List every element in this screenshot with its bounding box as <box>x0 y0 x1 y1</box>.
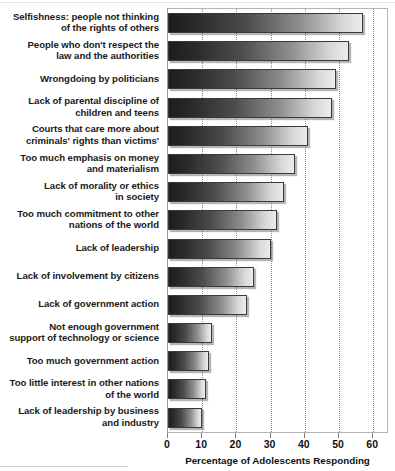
category-label: Lack of morality or ethicsin society <box>0 177 163 205</box>
bar-row <box>168 122 387 150</box>
bar-row <box>168 404 387 432</box>
category-label-line: Wrongdoing by politicians <box>40 73 159 84</box>
category-label-line: nations of the world <box>17 219 159 230</box>
x-axis-tick-labels: 0102030405060 <box>0 438 395 452</box>
x-tick-label: 50 <box>332 438 344 450</box>
category-label-line: of the world <box>10 389 159 400</box>
bar <box>168 41 349 61</box>
x-tick-label: 10 <box>195 438 207 450</box>
bar-row <box>168 178 387 206</box>
category-label-line: Selfishness: people not thinking <box>13 11 159 22</box>
bar <box>168 98 332 118</box>
bar <box>168 182 284 202</box>
scan-artifact-top <box>0 2 395 3</box>
bar-row <box>168 37 387 65</box>
x-tick-label: 60 <box>366 438 378 450</box>
bar <box>168 126 308 146</box>
category-label: Too much commitment to othernations of t… <box>0 205 163 233</box>
category-label: Lack of involvement by citizens <box>0 262 163 290</box>
bar-row <box>168 150 387 178</box>
bar-row <box>168 291 387 319</box>
category-label-line: Lack of morality or ethics <box>44 180 159 191</box>
x-tick-label: 20 <box>230 438 242 450</box>
x-tick-label: 30 <box>264 438 276 450</box>
category-label: Wrongdoing by politicians <box>0 64 163 92</box>
category-labels-column: Selfishness: people not thinkingof the r… <box>0 8 163 431</box>
category-label-line: Too much commitment to other <box>17 208 159 219</box>
category-label-line: Lack of leadership by business <box>18 405 159 416</box>
scan-artifact-bottom <box>0 466 128 467</box>
bar-row <box>168 94 387 122</box>
bar-row <box>168 9 387 37</box>
bar <box>168 69 336 89</box>
category-label-line: support of technology or science <box>9 332 159 343</box>
bar <box>168 267 254 287</box>
category-label-line: and industry <box>18 417 159 428</box>
category-label: Too much government action <box>0 346 163 374</box>
category-label-line: Lack of involvement by citizens <box>17 270 159 281</box>
bar <box>168 210 277 230</box>
category-label-line: and materialism <box>20 163 159 174</box>
bar <box>168 295 247 315</box>
category-label: Lack of parental discipline ofchildren a… <box>0 93 163 121</box>
category-label: Lack of leadership by businessand indust… <box>0 403 163 431</box>
bar-row <box>168 319 387 347</box>
category-label-line: Lack of government action <box>38 298 159 309</box>
category-label-line: criminals' rights than victims' <box>26 135 159 146</box>
category-label-line: Lack of parental discipline of <box>28 95 159 106</box>
bar-row <box>168 206 387 234</box>
category-label: Too much emphasis on moneyand materialis… <box>0 149 163 177</box>
category-label: Lack of government action <box>0 290 163 318</box>
category-label-line: Courts that care more about <box>26 123 159 134</box>
bar <box>168 239 271 259</box>
bar <box>168 351 209 371</box>
bar <box>168 323 212 343</box>
category-label-line: Too little interest in other nations <box>10 377 159 388</box>
category-label: Lack of leadership <box>0 234 163 262</box>
bars-group <box>168 9 387 432</box>
category-label-line: children and teens <box>28 107 159 118</box>
category-label-line: law and the authorities <box>28 50 159 61</box>
bar-row <box>168 263 387 291</box>
category-label-line: Lack of leadership <box>76 242 159 253</box>
x-axis-title: Percentage of Adolescents Responding <box>167 455 388 466</box>
x-tick-label: 40 <box>298 438 310 450</box>
bar-row <box>168 65 387 93</box>
category-label-line: in society <box>44 191 159 202</box>
category-label-line: People who don't respect the <box>28 39 159 50</box>
horizontal-bar-chart: Selfishness: people not thinkingof the r… <box>0 0 395 471</box>
category-label-line: Not enough government <box>9 321 159 332</box>
x-tick-label: 0 <box>164 438 170 450</box>
category-label-line: Too much emphasis on money <box>20 152 159 163</box>
category-label: Selfishness: people not thinkingof the r… <box>0 8 163 36</box>
category-label: Courts that care more aboutcriminals' ri… <box>0 121 163 149</box>
category-label: Not enough governmentsupport of technolo… <box>0 318 163 346</box>
bar <box>168 13 363 33</box>
bar-row <box>168 375 387 403</box>
bar <box>168 154 295 174</box>
category-label: People who don't respect thelaw and the … <box>0 36 163 64</box>
bar-row <box>168 347 387 375</box>
category-label: Too little interest in other nationsof t… <box>0 374 163 402</box>
category-label-line: of the rights of others <box>13 22 159 33</box>
bar <box>168 408 202 428</box>
category-label-line: Too much government action <box>27 355 159 366</box>
bar <box>168 379 206 399</box>
plot-area <box>167 8 388 433</box>
bar-row <box>168 235 387 263</box>
